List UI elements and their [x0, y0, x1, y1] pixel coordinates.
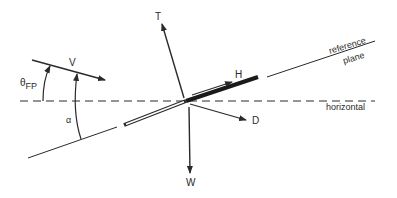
alpha-label: α: [66, 115, 71, 125]
drag-arrow: [190, 104, 246, 120]
theta-subscript: FP: [26, 81, 38, 91]
wing-thick-segment: [186, 77, 258, 101]
thrust-arrow: [162, 24, 184, 98]
reference-plane-line-lower: [28, 127, 117, 158]
theta-fp-arc: [43, 66, 50, 101]
h-label: H: [235, 69, 242, 80]
drag-label: D: [252, 115, 259, 126]
alpha-arc: [75, 74, 81, 139]
velocity-label: V: [69, 57, 76, 68]
force-diagram: T W H D V θFP α reference plane horizont…: [0, 0, 397, 198]
weight-label: W: [186, 177, 196, 188]
thrust-label: T: [155, 11, 161, 22]
horizontal-label: horizontal: [326, 102, 365, 112]
weight-arrow: [189, 107, 190, 173]
plane-label: plane: [342, 50, 366, 66]
wing-double-segment-inner: [126, 102, 184, 124]
theta-fp-label: θFP: [20, 77, 37, 91]
